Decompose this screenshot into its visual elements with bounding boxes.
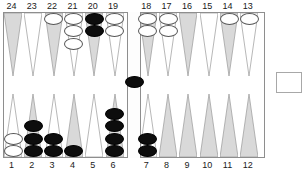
point-number-14: 14 (220, 1, 236, 12)
point-8[interactable] (159, 94, 177, 157)
bottom-point-numbers: 123456789101112 (0, 160, 268, 171)
point-9[interactable] (179, 94, 197, 157)
point-number-11: 11 (220, 160, 236, 171)
cropped-caption-row (0, 172, 302, 178)
point-number-16: 16 (179, 1, 195, 12)
checker-black-point-6[interactable] (105, 145, 124, 157)
point-5[interactable] (85, 94, 103, 157)
point-number-15: 15 (199, 1, 215, 12)
point-number-17: 17 (159, 1, 175, 12)
point-12[interactable] (240, 94, 258, 157)
checker-black-point-6[interactable] (105, 108, 124, 120)
point-number-4: 4 (64, 160, 80, 171)
point-number-21: 21 (64, 1, 80, 12)
checker-white-point-22[interactable] (44, 13, 63, 25)
point-number-5: 5 (85, 160, 101, 171)
checker-black-point-6[interactable] (105, 133, 124, 145)
point-number-9: 9 (179, 160, 195, 171)
point-number-6: 6 (105, 160, 121, 171)
point-number-3: 3 (44, 160, 60, 171)
point-number-22: 22 (44, 1, 60, 12)
checker-black-point-7[interactable] (138, 133, 157, 145)
point-24[interactable] (4, 13, 22, 76)
point-number-24: 24 (4, 1, 20, 12)
point-number-1: 1 (4, 160, 20, 171)
checker-black-point-20[interactable] (85, 13, 104, 25)
backgammon-board: 242322212019181716151413 123456789101112 (0, 0, 302, 178)
checker-black-point-3[interactable] (44, 133, 63, 145)
checker-white-point-19[interactable] (105, 13, 124, 25)
checker-white-point-14[interactable] (220, 13, 239, 25)
checker-black-point-3[interactable] (44, 145, 63, 157)
top-point-numbers: 242322212019181716151413 (0, 1, 268, 12)
bear-off-tray[interactable] (276, 72, 302, 93)
checker-black-point-2[interactable] (24, 145, 43, 157)
point-number-19: 19 (105, 1, 121, 12)
bar-checker-black[interactable] (125, 76, 144, 88)
point-number-2: 2 (24, 160, 40, 171)
point-number-23: 23 (24, 1, 40, 12)
point-16[interactable] (179, 13, 197, 76)
point-number-13: 13 (240, 1, 256, 12)
checker-white-point-17[interactable] (159, 13, 178, 25)
point-11[interactable] (220, 94, 238, 157)
point-number-8: 8 (159, 160, 175, 171)
checker-black-point-2[interactable] (24, 133, 43, 145)
checker-white-point-21[interactable] (64, 38, 83, 50)
checker-white-point-1[interactable] (4, 133, 23, 145)
point-number-7: 7 (138, 160, 154, 171)
point-23[interactable] (24, 13, 42, 76)
checker-white-point-13[interactable] (240, 13, 259, 25)
point-15[interactable] (200, 13, 218, 76)
cropped-caption-text (14, 172, 20, 175)
point-number-20: 20 (85, 1, 101, 12)
point-number-18: 18 (138, 1, 154, 12)
point-number-12: 12 (240, 160, 256, 171)
point-10[interactable] (200, 94, 218, 157)
checker-white-point-1[interactable] (4, 145, 23, 157)
checker-black-point-2[interactable] (24, 120, 43, 132)
point-number-10: 10 (199, 160, 215, 171)
